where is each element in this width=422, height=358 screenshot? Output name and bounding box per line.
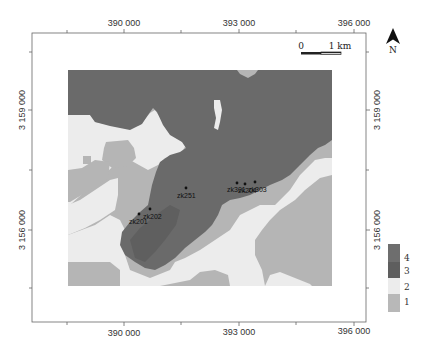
x-bottom-label: 390 000 (108, 328, 141, 338)
x-top-label: 393 000 (223, 18, 256, 28)
x-top-label: 390 000 (108, 18, 141, 28)
y-left-label: 3 156 000 (17, 210, 27, 250)
scale-end-label: 1 km (329, 41, 352, 51)
x-top-label: 396 000 (338, 18, 371, 28)
legend-label-2: 2 (404, 282, 410, 292)
y-right-label: 3 156 000 (372, 210, 382, 250)
classified-map: 390 000 393 000 396 000 390 000 393 000 … (0, 0, 422, 358)
class-1-patch (83, 156, 91, 164)
legend-swatch-2 (388, 278, 400, 294)
well-label: zk303 (248, 186, 267, 193)
legend-swatch-4 (388, 244, 400, 262)
legend-swatch-3 (388, 262, 400, 278)
right-ticks (366, 52, 370, 288)
x-bottom-label: 396 000 (338, 326, 371, 336)
north-arrow-icon: N (386, 28, 400, 55)
y-right-label: 3 159 000 (372, 90, 382, 130)
scale-start-label: 0 (298, 41, 304, 51)
bottom-ticks (67, 322, 354, 326)
well-marker (254, 181, 257, 184)
legend-label-1: 1 (404, 297, 410, 307)
y-left-label: 3 159 000 (17, 90, 27, 130)
well-label: zk251 (177, 192, 196, 199)
left-ticks (28, 52, 32, 288)
well-marker (185, 187, 188, 190)
legend: 4 3 2 1 (388, 244, 410, 312)
well-marker (138, 213, 141, 216)
well-marker (244, 183, 247, 186)
legend-label-3: 3 (404, 266, 410, 276)
legend-label-4: 4 (404, 253, 410, 263)
x-bottom-label: 393 000 (223, 327, 256, 337)
top-ticks (67, 29, 354, 33)
raster-layer (68, 70, 332, 286)
north-label: N (389, 45, 397, 55)
well-label: zk201 (129, 218, 148, 225)
well-marker (149, 208, 152, 211)
legend-swatch-1 (388, 294, 400, 312)
well-marker (236, 182, 239, 185)
